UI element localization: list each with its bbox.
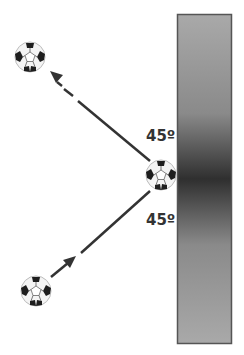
outgoing-arrow <box>50 71 150 161</box>
wall <box>178 15 232 344</box>
incoming-arrow <box>51 191 150 277</box>
angle-label-incidence: 45º <box>146 211 175 229</box>
soccer-ball-icon <box>21 276 51 306</box>
angle-label-reflection: 45º <box>146 127 175 145</box>
soccer-ball-icon <box>146 160 176 190</box>
soccer-ball-icon <box>15 42 45 72</box>
reflection-diagram <box>0 0 244 355</box>
